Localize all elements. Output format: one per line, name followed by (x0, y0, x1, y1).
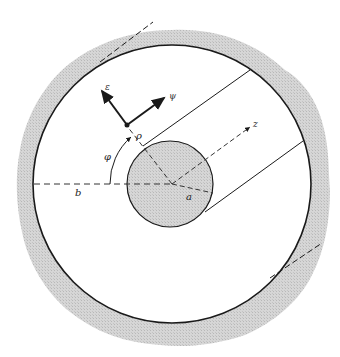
unit-vector-rho-label: ψ (169, 91, 177, 101)
cylinder-diagram: ε ψ ρ φ b a z (0, 0, 340, 357)
a-label: a (186, 191, 192, 202)
rho-label: ρ (135, 130, 142, 141)
unit-vector-phi-label: ε (105, 82, 110, 92)
phi-label: φ (104, 151, 111, 162)
point-marker (125, 123, 130, 128)
b-label: b (75, 187, 81, 198)
z-label: z (252, 119, 258, 129)
